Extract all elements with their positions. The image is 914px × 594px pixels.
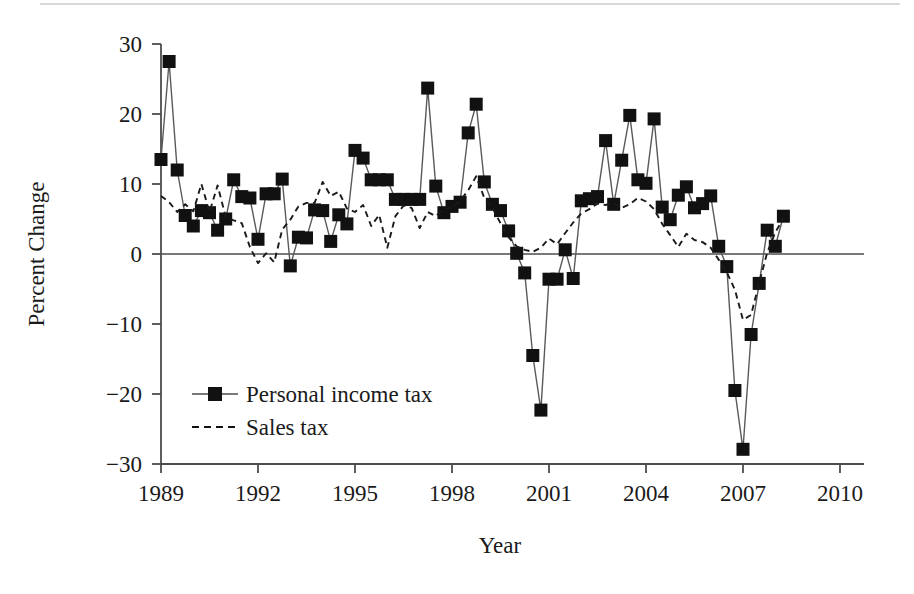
y-tick-label: −20 bbox=[106, 382, 142, 407]
chart-legend: Personal income tax Sales tax bbox=[192, 382, 433, 440]
data-point-marker bbox=[591, 190, 604, 203]
data-point-marker bbox=[340, 217, 353, 230]
x-axis-tick-labels: 19891992199519982001200420072010 bbox=[138, 481, 863, 506]
y-tick-label: 20 bbox=[119, 102, 142, 127]
data-point-marker bbox=[526, 349, 539, 362]
data-point-marker bbox=[243, 192, 256, 205]
data-point-marker bbox=[518, 266, 531, 279]
data-point-marker bbox=[745, 328, 758, 341]
data-point-marker bbox=[429, 180, 442, 193]
data-point-marker bbox=[567, 272, 580, 285]
y-axis-title: Percent Change bbox=[24, 182, 49, 327]
data-point-marker bbox=[211, 224, 224, 237]
data-point-marker bbox=[155, 153, 168, 166]
data-point-marker bbox=[300, 231, 313, 244]
page-edge-artifact bbox=[40, 3, 900, 5]
data-point-marker bbox=[664, 213, 677, 226]
data-point-marker bbox=[413, 193, 426, 206]
x-tick-label: 1995 bbox=[332, 481, 378, 506]
data-point-marker bbox=[615, 154, 628, 167]
legend-label-personal-income-tax: Personal income tax bbox=[246, 382, 433, 407]
y-tick-label: −10 bbox=[106, 312, 142, 337]
x-tick-label: 2007 bbox=[720, 481, 766, 506]
data-point-marker bbox=[648, 112, 661, 125]
data-point-marker bbox=[777, 210, 790, 223]
data-point-marker bbox=[769, 240, 782, 253]
legend-marker-personal-income-tax bbox=[208, 387, 222, 401]
data-point-marker bbox=[704, 189, 717, 202]
data-point-marker bbox=[640, 177, 653, 190]
y-tick-label: 0 bbox=[131, 242, 143, 267]
y-axis-tick-labels: 3020100−10−20−30 bbox=[106, 32, 142, 477]
data-point-marker bbox=[316, 204, 329, 217]
x-tick-label: 2001 bbox=[526, 481, 572, 506]
data-point-marker bbox=[510, 247, 523, 260]
data-point-marker bbox=[357, 152, 370, 165]
data-point-marker bbox=[761, 224, 774, 237]
data-point-marker bbox=[680, 180, 693, 193]
percent-change-line-chart: 3020100−10−20−30 19891992199519982001200… bbox=[0, 0, 914, 594]
data-point-marker bbox=[656, 201, 669, 214]
data-point-marker bbox=[203, 206, 216, 219]
data-point-marker bbox=[470, 98, 483, 111]
x-tick-label: 1992 bbox=[235, 481, 281, 506]
data-point-marker bbox=[534, 404, 547, 417]
data-point-marker bbox=[454, 196, 467, 209]
data-point-marker bbox=[163, 55, 176, 68]
x-tick-label: 1989 bbox=[138, 481, 184, 506]
data-point-marker bbox=[276, 173, 289, 186]
y-tick-label: 30 bbox=[119, 32, 142, 57]
data-point-marker bbox=[551, 273, 564, 286]
data-point-marker bbox=[171, 164, 184, 177]
data-point-marker bbox=[623, 109, 636, 122]
x-tick-label: 2004 bbox=[623, 481, 670, 506]
x-tick-label: 2010 bbox=[817, 481, 863, 506]
data-point-marker bbox=[728, 384, 741, 397]
data-point-marker bbox=[187, 220, 200, 233]
data-point-marker bbox=[737, 443, 750, 456]
data-point-marker bbox=[324, 235, 337, 248]
axis-lines bbox=[152, 44, 864, 473]
data-point-marker bbox=[599, 134, 612, 147]
data-point-marker bbox=[227, 173, 240, 186]
data-point-marker bbox=[284, 259, 297, 272]
data-point-marker bbox=[462, 126, 475, 139]
data-point-marker bbox=[381, 173, 394, 186]
data-point-marker bbox=[712, 240, 725, 253]
data-point-marker bbox=[753, 277, 766, 290]
data-point-marker bbox=[268, 187, 281, 200]
chart-figure: 3020100−10−20−30 19891992199519982001200… bbox=[0, 0, 914, 594]
x-tick-label: 1998 bbox=[429, 481, 475, 506]
y-tick-label: −30 bbox=[106, 452, 142, 477]
legend-label-sales-tax: Sales tax bbox=[246, 415, 329, 440]
data-point-marker bbox=[252, 233, 265, 246]
y-tick-label: 10 bbox=[119, 172, 142, 197]
data-point-marker bbox=[494, 204, 507, 217]
x-axis-title: Year bbox=[479, 533, 522, 558]
data-point-marker bbox=[421, 82, 434, 95]
data-point-marker bbox=[559, 243, 572, 256]
